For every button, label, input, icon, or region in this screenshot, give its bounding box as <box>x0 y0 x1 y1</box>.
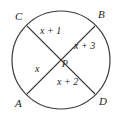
segment-label-ap: x <box>35 64 39 74</box>
segment-label-cp: x + 1 <box>40 26 61 36</box>
vertex-label-d: D <box>99 96 107 107</box>
segment-label-pb: x + 3 <box>74 41 95 51</box>
vertex-label-p: P <box>62 60 68 70</box>
vertex-label-b: B <box>98 9 105 20</box>
geometry-figure: C B A D P x + 1 x + 3 x x + 2 <box>0 0 121 120</box>
segment-label-pd: x + 2 <box>57 77 78 87</box>
vertex-label-a: A <box>15 98 22 109</box>
vertex-label-c: C <box>15 11 22 22</box>
